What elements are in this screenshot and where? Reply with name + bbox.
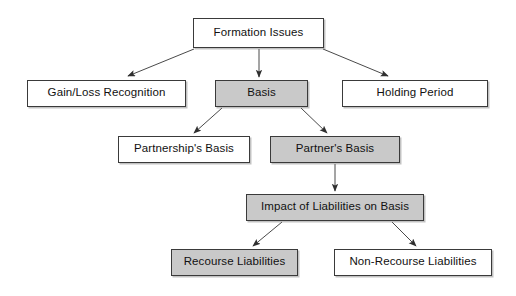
edge-impact-to-recourse xyxy=(253,222,282,246)
node-label: Partner's Basis xyxy=(296,143,374,156)
node-partnerships-basis[interactable]: Partnership's Basis xyxy=(118,136,250,163)
node-recourse-liabilities[interactable]: Recourse Liabilities xyxy=(171,249,298,276)
node-impact-of-liabilities-on-basis[interactable]: Impact of Liabilities on Basis xyxy=(246,194,424,221)
node-label: Basis xyxy=(247,87,276,100)
diagram-canvas: Formation IssuesGain/Loss RecognitionBas… xyxy=(0,0,516,296)
node-formation-issues[interactable]: Formation Issues xyxy=(193,18,324,48)
edge-formation-to-gain-loss xyxy=(128,49,194,76)
edge-impact-to-non-recourse xyxy=(392,222,416,246)
edge-formation-to-holding-period xyxy=(323,49,388,76)
node-label: Recourse Liabilities xyxy=(184,256,286,269)
node-non-recourse-liabilities[interactable]: Non-Recourse Liabilities xyxy=(334,249,492,276)
node-label: Gain/Loss Recognition xyxy=(48,87,166,100)
edge-basis-to-partners-basis xyxy=(301,108,327,133)
node-basis[interactable]: Basis xyxy=(215,80,308,107)
node-label: Partnership's Basis xyxy=(134,143,234,156)
node-gain-loss-recognition[interactable]: Gain/Loss Recognition xyxy=(27,80,186,107)
node-partners-basis[interactable]: Partner's Basis xyxy=(270,136,400,163)
node-label: Formation Issues xyxy=(214,27,304,40)
node-label: Non-Recourse Liabilities xyxy=(349,256,476,269)
node-label: Impact of Liabilities on Basis xyxy=(261,201,409,214)
edge-basis-to-partnerships-basis xyxy=(194,108,222,133)
node-holding-period[interactable]: Holding Period xyxy=(342,80,488,107)
node-label: Holding Period xyxy=(377,87,454,100)
